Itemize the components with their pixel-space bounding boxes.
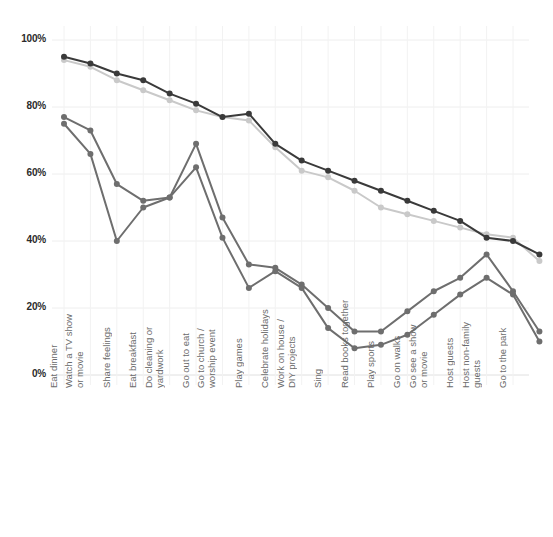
y-tick-label: 40% [27,234,46,245]
x-tick-label: Watch a TV show or movie [63,248,85,388]
data-point [140,77,146,83]
data-point [484,235,490,241]
data-point [352,188,358,194]
x-tick-label: Play games [233,248,244,388]
x-tick-label: Eat breakfast [127,248,138,388]
data-point [404,211,410,217]
data-point [114,77,120,83]
data-point [61,121,67,127]
data-point [536,339,542,345]
data-point [484,275,490,281]
x-tick-label: Do cleaning or yardwork [143,248,165,388]
data-point [140,205,146,211]
data-point [140,87,146,93]
x-tick-label: Sing [312,248,323,388]
data-point [325,305,331,311]
x-tick-label: Work on house / DIY projects [275,248,297,388]
data-point [193,141,199,147]
data-point [246,261,252,267]
x-tick-label: Host non-family guests [460,248,482,388]
data-point [378,205,384,211]
line-chart: 0%20%40%60%80%100% Eat dinnerWatch a TV … [0,0,553,537]
y-tick-label: 100% [21,33,46,44]
x-tick-label: Read books together [339,248,350,388]
data-point [431,208,437,214]
data-point [219,215,225,221]
data-point [114,181,120,187]
data-point [536,258,542,264]
data-point [246,111,252,117]
x-tick-label: Go on walks [391,248,402,388]
data-point [325,168,331,174]
data-point [114,238,120,244]
data-point [536,328,542,334]
data-point [378,188,384,194]
data-point [61,54,67,60]
data-point [193,101,199,107]
data-point [431,312,437,318]
y-tick-label: 60% [27,167,46,178]
data-point [87,60,93,66]
data-point [87,151,93,157]
data-point [219,235,225,241]
x-tick-label: Share feelings [101,248,112,388]
data-point [167,91,173,97]
x-tick-label: Go to church / worship event [195,248,217,388]
data-point [272,141,278,147]
data-point [246,117,252,123]
data-point [431,288,437,294]
data-point [352,328,358,334]
x-tick-label: Host guests [444,248,455,388]
x-tick-label: Go see a show or movie [407,248,429,388]
data-point [193,107,199,113]
data-point [510,238,516,244]
data-point [431,218,437,224]
data-point [140,198,146,204]
data-point [167,97,173,103]
data-point [378,328,384,334]
x-tick-label: Celebrate holidays [259,248,270,388]
data-point [61,114,67,120]
data-point [87,127,93,133]
y-tick-label: 80% [27,100,46,111]
data-point [536,251,542,257]
x-tick-label: Go out to eat [180,248,191,388]
data-point [378,342,384,348]
x-tick-label: Go to the park [497,248,508,388]
y-tick-label: 20% [27,301,46,312]
data-point [167,194,173,200]
x-tick-label: Eat dinner [48,248,59,388]
data-point [114,71,120,77]
data-point [299,285,305,291]
data-point [352,178,358,184]
data-point [325,174,331,180]
data-point [219,114,225,120]
data-point [299,168,305,174]
data-point [484,251,490,257]
data-point [193,164,199,170]
data-point [352,345,358,351]
data-point [404,198,410,204]
data-point [299,158,305,164]
data-point [457,225,463,231]
data-point [510,292,516,298]
data-point [325,325,331,331]
data-point [246,285,252,291]
data-point [457,218,463,224]
x-tick-label: Play sports [365,248,376,388]
y-tick-label: 0% [32,368,46,379]
